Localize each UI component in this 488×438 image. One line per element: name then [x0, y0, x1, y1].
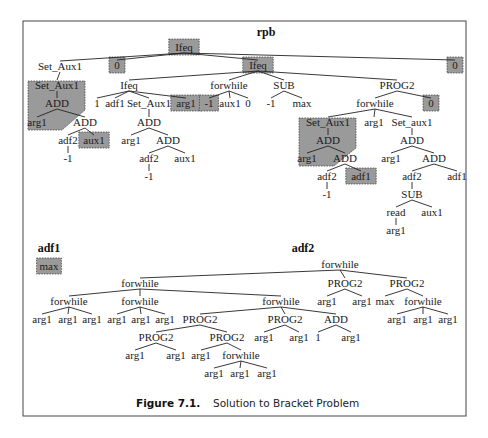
- tree-node-1: 1: [94, 97, 100, 109]
- tree-node-arg1: arg1: [317, 295, 336, 307]
- tree-node-ifeq: Ifeq: [175, 41, 193, 53]
- tree-node-arg1: arg1: [364, 116, 383, 128]
- tree-node-forwhile: forwhile: [321, 258, 358, 270]
- tree-node-prog2: PROG2: [380, 79, 415, 91]
- tree-title-rpb: rpb: [257, 25, 276, 39]
- tree-node-adf1: adf1: [351, 170, 371, 182]
- caption-text: Solution to Bracket Problem: [213, 397, 359, 409]
- tree-node--1: -1: [266, 97, 275, 109]
- tree-node-sub: SUB: [273, 79, 294, 91]
- tree-node-max: max: [376, 295, 395, 307]
- tree-node-arg1: arg1: [381, 152, 400, 164]
- tree-node-read: read: [387, 206, 406, 218]
- tree-node-set-aux1: Set_aux1: [392, 116, 433, 128]
- tree-node-1: 1: [315, 331, 321, 343]
- tree-node-arg1: arg1: [289, 331, 308, 343]
- tree-node-adf1: adf1: [447, 170, 467, 182]
- tree-node-forwhile: forwhile: [210, 79, 247, 91]
- caption-label: Figure 7.1.: [136, 397, 200, 409]
- tree-node-aux1: aux1: [83, 134, 104, 146]
- tree-node-prog2: PROG2: [328, 277, 363, 289]
- tree-node-0: 0: [428, 97, 434, 109]
- tree-node-max: max: [40, 260, 59, 272]
- tree-node-0: 0: [245, 97, 251, 109]
- tree-node-arg1: arg1: [155, 313, 174, 325]
- tree-node-add: ADD: [45, 97, 69, 109]
- tree-node-prog2: PROG2: [139, 331, 174, 343]
- tree-node-forwhile: forwhile: [121, 277, 158, 289]
- tree-node-arg1: arg1: [131, 313, 150, 325]
- tree-node-set-aux1: Set_Aux1: [306, 116, 350, 128]
- tree-node-arg1: arg1: [125, 349, 144, 361]
- tree-node-arg1: arg1: [387, 313, 406, 325]
- tree-node-arg1: arg1: [107, 313, 126, 325]
- tree-node-set-aux1: Set_Aux1: [38, 60, 82, 72]
- tree-node-forwhile: forwhile: [404, 295, 441, 307]
- tree-node-add: ADD: [316, 134, 340, 146]
- tree-node-adf2: adf2: [58, 134, 78, 146]
- tree-node-prog2: PROG2: [390, 277, 425, 289]
- tree-node-forwhile: forwhile: [121, 295, 158, 307]
- tree-node-prog2: PROG2: [268, 313, 303, 325]
- tree-node-arg1: arg1: [204, 367, 223, 379]
- tree-node-aux1: aux1: [174, 152, 195, 164]
- tree-node-forwhile: forwhile: [356, 97, 393, 109]
- tree-node-arg1: arg1: [32, 313, 51, 325]
- tree-node-add: ADD: [422, 152, 446, 164]
- figure-7-1: IfeqSet_Aux10Ifeq0Set_Aux1ADDarg1ADDadf2…: [0, 0, 488, 438]
- tree-node-arg1: arg1: [230, 367, 249, 379]
- tree-node-add: ADD: [324, 313, 348, 325]
- tree-node-arg1: arg1: [27, 116, 46, 128]
- tree-node-max: max: [293, 97, 312, 109]
- tree-node-ifeq: Ifeq: [249, 59, 267, 71]
- tree-node-arg1: arg1: [257, 367, 276, 379]
- tree-node--1: -1: [204, 97, 213, 109]
- tree-diagram-canvas: IfeqSet_Aux10Ifeq0Set_Aux1ADDarg1ADDadf2…: [0, 0, 488, 438]
- tree-node-arg1: arg1: [386, 224, 405, 236]
- tree-node-adf1: adf1: [105, 97, 125, 109]
- tree-node-adf2: adf2: [317, 170, 337, 182]
- tree-node-arg1: arg1: [166, 349, 185, 361]
- tree-node-arg1: arg1: [254, 331, 273, 343]
- tree-node-prog2: PROG2: [183, 313, 218, 325]
- tree-node--1: -1: [63, 152, 72, 164]
- tree-node-arg1: arg1: [341, 331, 360, 343]
- tree-node-arg1: arg1: [413, 313, 432, 325]
- tree-node-add: ADD: [333, 152, 357, 164]
- tree-node-forwhile: forwhile: [262, 295, 299, 307]
- tree-node-ifeq: Ifeq: [120, 79, 138, 91]
- tree-node-set-aux1: Set_Aux1: [127, 97, 171, 109]
- tree-node-add: ADD: [73, 116, 97, 128]
- tree-node--1: -1: [144, 170, 153, 182]
- tree-edge: [397, 91, 431, 98]
- tree-node-arg1: arg1: [297, 152, 316, 164]
- tree-node-adf2: adf2: [402, 170, 422, 182]
- tree-node-prog2: PROG2: [210, 331, 245, 343]
- tree-edge: [140, 289, 281, 296]
- tree-node--1: -1: [322, 188, 331, 200]
- tree-node-arg1: arg1: [82, 313, 101, 325]
- tree-node-set-aux1: Set_Aux1: [35, 79, 79, 91]
- tree-node-arg1: arg1: [121, 134, 140, 146]
- tree-node-add: ADD: [137, 116, 161, 128]
- tree-node-add: ADD: [156, 134, 180, 146]
- tree-edge: [140, 270, 340, 278]
- tree-node-forwhile: forwhile: [50, 295, 87, 307]
- figure-caption: Figure 7.1. Solution to Bracket Problem: [136, 397, 359, 409]
- tree-node-arg1: arg1: [176, 97, 195, 109]
- tree-node-arg1: arg1: [58, 313, 77, 325]
- tree-node-aux1: aux1: [421, 206, 442, 218]
- tree-node-0: 0: [114, 59, 120, 71]
- tree-node-0: 0: [452, 59, 458, 71]
- tree-node-forwhile: forwhile: [222, 349, 259, 361]
- tree-node-adf2: adf2: [139, 152, 159, 164]
- tree-node-arg1: arg1: [191, 349, 210, 361]
- tree-title-adf1: adf1: [38, 241, 61, 255]
- tree-node-arg1: arg1: [352, 295, 371, 307]
- tree-title-adf2: adf2: [292, 241, 315, 255]
- tree-node-aux1: aux1: [219, 97, 240, 109]
- tree-node-add: ADD: [400, 134, 424, 146]
- tree-node-arg1: arg1: [438, 313, 457, 325]
- tree-node-sub: SUB: [401, 188, 422, 200]
